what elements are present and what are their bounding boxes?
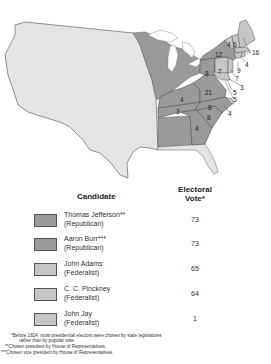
candidate-label: C. C. Pinckney (Federalist) xyxy=(64,285,110,302)
candidate-name: Aaron Burr*** xyxy=(64,235,106,244)
color-swatch xyxy=(34,238,57,251)
electoral-votes: 73 xyxy=(180,240,210,247)
electoral-votes: 64 xyxy=(180,290,210,297)
vote-label: 6 xyxy=(233,41,237,48)
candidate-party: (Republican) xyxy=(64,244,106,253)
state-massachusetts xyxy=(238,20,255,48)
color-swatch xyxy=(34,263,57,276)
legend-row-burr: Aaron Burr*** (Republican) 73 xyxy=(0,235,271,261)
candidate-label: Aaron Burr*** (Republican) xyxy=(64,235,106,252)
vote-label: 3 xyxy=(176,108,180,115)
header-electoral-vote: Electoral Vote* xyxy=(170,185,220,203)
state-rhode-island xyxy=(241,52,245,57)
vote-label: 12 xyxy=(215,51,223,58)
vote-label: 8 xyxy=(207,114,211,121)
western-territory xyxy=(5,22,158,178)
color-swatch xyxy=(34,313,57,326)
candidate-party: (Federalist) xyxy=(64,294,110,303)
candidate-name: Thomas Jefferson** xyxy=(64,211,125,220)
florida xyxy=(158,144,218,174)
vote-label: 7 xyxy=(235,75,239,82)
electoral-votes: 1 xyxy=(180,315,210,322)
candidate-name: John Adams xyxy=(64,260,103,269)
vote-label: 4 xyxy=(245,61,249,68)
election-map: 4 6 16 12 4 9 7 3 5 5 8 7 21 4 3 8 4 8 4 xyxy=(0,0,271,185)
mississippi-territory xyxy=(158,116,192,147)
color-swatch xyxy=(34,214,57,227)
vote-label: 3 xyxy=(240,84,244,91)
header-vote-line1: Electoral xyxy=(170,185,220,194)
electoral-votes: 65 xyxy=(180,265,210,272)
vote-label: 5 xyxy=(233,89,237,96)
candidate-label: John Jay (Federalist) xyxy=(64,310,99,327)
candidate-label: Thomas Jefferson** (Republican) xyxy=(64,211,125,228)
vote-label: 4 xyxy=(228,110,232,117)
candidate-party: (Federalist) xyxy=(64,269,103,278)
legend-row-jefferson: Thomas Jefferson** (Republican) 73 xyxy=(0,211,271,237)
header-candidate: Candidate xyxy=(77,192,116,201)
candidate-label: John Adams (Federalist) xyxy=(64,260,103,277)
vote-label: 4 xyxy=(227,41,231,48)
footnote-1-cont: rather than by popular vote. xyxy=(19,338,75,343)
vote-label: 16 xyxy=(252,49,260,56)
footnote-2: **Chosen president by House of Represent… xyxy=(5,344,106,349)
legend-row-adams: John Adams (Federalist) 65 xyxy=(0,260,271,286)
vote-label: 5 xyxy=(233,96,237,103)
vote-label: 21 xyxy=(205,89,213,96)
candidate-name: C. C. Pinckney xyxy=(64,285,110,294)
legend-row-pinckney: C. C. Pinckney (Federalist) 64 xyxy=(0,285,271,311)
header-vote-line2: Vote* xyxy=(170,194,220,203)
vote-label: 4 xyxy=(180,96,184,103)
footnote-3: ***Chosen vice president by House of Rep… xyxy=(1,350,113,355)
vote-label: 9 xyxy=(237,67,241,74)
candidate-party: (Republican) xyxy=(64,220,125,229)
vote-label: 7 xyxy=(218,68,222,75)
vote-label: 8 xyxy=(208,104,212,111)
color-swatch xyxy=(34,288,57,301)
electoral-votes: 73 xyxy=(180,216,210,223)
vote-label: 8 xyxy=(205,70,209,77)
candidate-name: John Jay xyxy=(64,310,99,319)
vote-label: 4 xyxy=(195,125,199,132)
candidate-party: (Federalist) xyxy=(64,319,99,328)
